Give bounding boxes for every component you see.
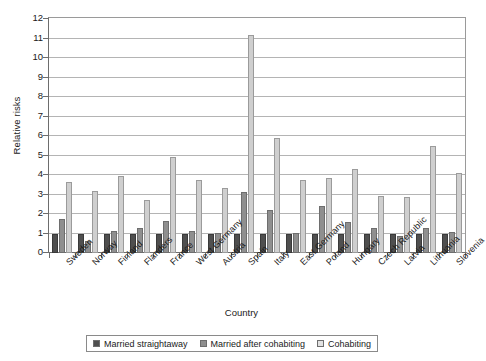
y-tick-mark — [43, 213, 48, 214]
bar — [66, 182, 72, 253]
bar — [118, 176, 124, 253]
x-tick-mark — [49, 253, 50, 258]
y-tick-mark — [43, 155, 48, 156]
bar — [248, 35, 254, 253]
y-tick-mark — [43, 38, 48, 39]
bar-group — [283, 18, 309, 253]
bar-group — [179, 18, 205, 253]
bar-group — [309, 18, 335, 253]
bar-group — [205, 18, 231, 253]
bar-group — [153, 18, 179, 253]
bar — [293, 233, 299, 253]
y-tick-mark — [43, 96, 48, 97]
y-tick-label: 12 — [15, 13, 43, 23]
bar — [300, 180, 306, 253]
y-tick-mark — [43, 57, 48, 58]
y-tick-mark — [43, 116, 48, 117]
y-tick-label: 11 — [15, 33, 43, 43]
chart-legend: Married straightawayMarried after cohabi… — [86, 335, 378, 352]
legend-item: Married after cohabiting — [200, 339, 306, 349]
bar-group — [75, 18, 101, 253]
bar — [430, 146, 436, 253]
y-tick-mark — [43, 18, 48, 19]
y-tick-mark — [43, 77, 48, 78]
bar-group — [127, 18, 153, 253]
bar — [274, 138, 280, 253]
legend-swatch-icon — [200, 340, 207, 347]
bar — [267, 210, 273, 253]
y-tick-label: 2 — [15, 208, 43, 218]
legend-item: Married straightaway — [93, 339, 188, 349]
bar — [52, 234, 58, 254]
bar-group — [387, 18, 413, 253]
y-tick-label: 10 — [15, 52, 43, 62]
bar — [352, 169, 358, 253]
y-tick-label: 5 — [15, 150, 43, 160]
y-tick-label: 4 — [15, 169, 43, 179]
y-tick-label: 9 — [15, 72, 43, 82]
bar-group — [257, 18, 283, 253]
legend-label: Cohabiting — [328, 339, 371, 349]
legend-item: Cohabiting — [317, 339, 371, 349]
bar — [59, 219, 65, 253]
x-axis-title: Country — [0, 307, 483, 318]
y-tick-label: 8 — [15, 91, 43, 101]
legend-swatch-icon — [317, 340, 324, 347]
y-tick-label: 1 — [15, 228, 43, 238]
bars-layer — [49, 18, 465, 253]
y-tick-mark — [43, 252, 48, 253]
y-tick-mark — [43, 233, 48, 234]
bar — [196, 180, 202, 253]
y-tick-label: 3 — [15, 189, 43, 199]
legend-label: Married after cohabiting — [211, 339, 306, 349]
y-tick-mark — [43, 174, 48, 175]
y-tick-label: 7 — [15, 111, 43, 121]
bar-group — [361, 18, 387, 253]
bar-group — [101, 18, 127, 253]
bar-group — [49, 18, 75, 253]
legend-swatch-icon — [93, 340, 100, 347]
y-tick-label: 6 — [15, 130, 43, 140]
legend-label: Married straightaway — [104, 339, 188, 349]
y-tick-mark — [43, 194, 48, 195]
y-tick-label: 0 — [15, 247, 43, 257]
bar-group — [439, 18, 465, 253]
y-tick-mark — [43, 135, 48, 136]
